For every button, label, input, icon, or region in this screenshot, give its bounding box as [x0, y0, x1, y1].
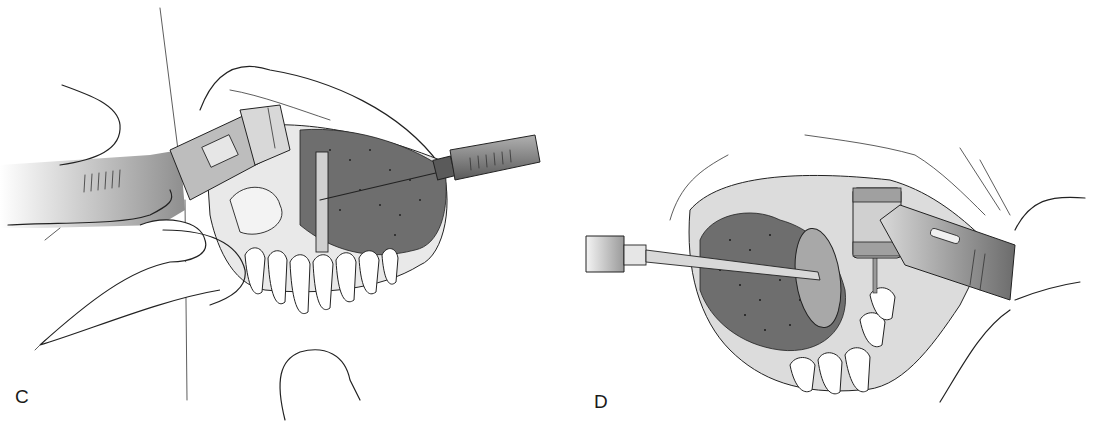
panel-label-d: D [594, 391, 608, 413]
surgical-illustration-c [0, 0, 560, 431]
figure-panel-c: C [0, 0, 560, 431]
panel-label-c: C [15, 386, 29, 408]
figure-panel-d: D [560, 0, 1114, 431]
surgical-illustration-d [560, 0, 1114, 431]
